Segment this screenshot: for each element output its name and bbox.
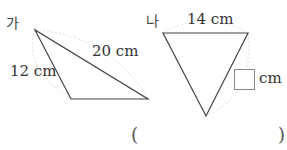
figure-label-na: 나 — [146, 10, 159, 30]
answer-box[interactable] — [234, 69, 255, 90]
answer-close-paren: ) — [278, 124, 285, 145]
unit-cm: cm — [259, 69, 282, 87]
side-length-20: 20 cm — [92, 42, 138, 60]
figure-label-ga: 가 — [6, 12, 19, 32]
answer-open-paren: ( — [131, 124, 138, 145]
answer-field[interactable] — [142, 126, 272, 146]
side-length-12: 12 cm — [10, 62, 56, 80]
side-length-14: 14 cm — [187, 10, 233, 28]
